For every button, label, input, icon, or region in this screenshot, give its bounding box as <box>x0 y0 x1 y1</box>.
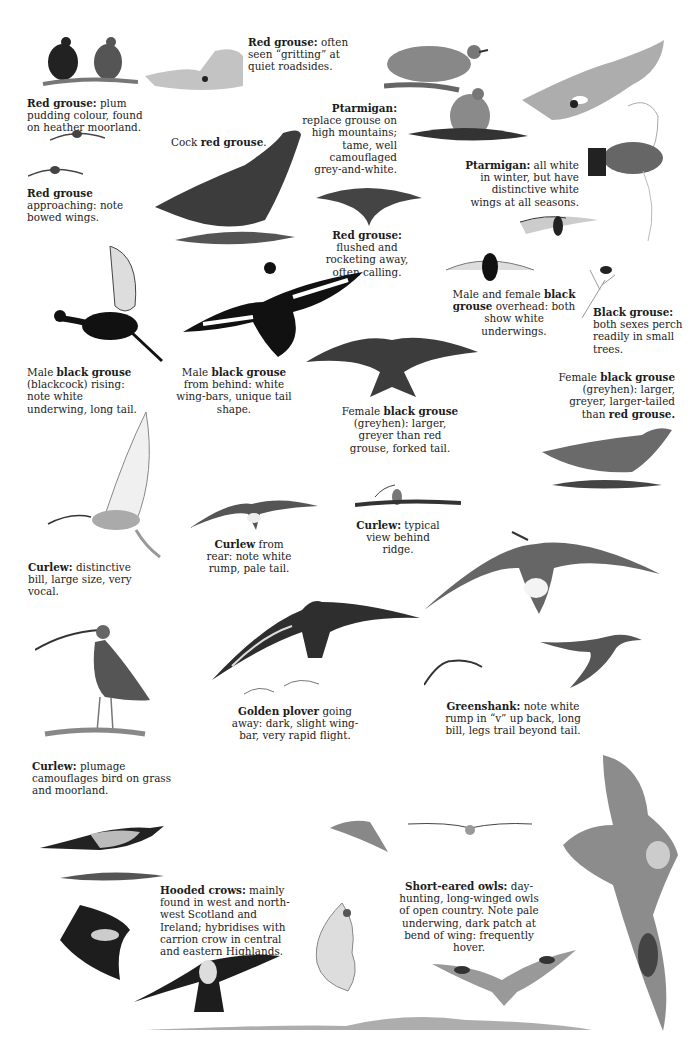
caption-bold: Red grouse: <box>332 229 402 241</box>
caption-post: . <box>671 408 675 420</box>
caption-bold: Curlew: <box>28 561 73 573</box>
caption-pre: Male and female <box>453 288 544 300</box>
caption-bold: Red grouse: <box>27 97 97 109</box>
caption-bold: Red grouse <box>27 187 93 199</box>
caption-short-eared-owls: Short-eared owls: day-hunting, long-wing… <box>393 880 545 953</box>
golden-plover-illustration <box>212 596 420 682</box>
curlew-rising-illustration <box>46 412 162 558</box>
caption-curlew-plumage: Curlew: plumage camouflages bird on gras… <box>32 760 182 797</box>
caption-blackcock-rising: Male black grouse (blackcock) rising: no… <box>27 366 145 415</box>
short-eared-owl-banking-illustration <box>330 818 390 854</box>
caption-curlew-rear: Curlew from rear: note white rump, pale … <box>203 538 295 575</box>
caption-text: (greyhen): larger, greyer than red grous… <box>350 417 450 453</box>
caption-ptarmigan-winter: Ptarmigan: all white in winter, but have… <box>461 159 579 208</box>
short-eared-owl-large-illustration <box>563 755 683 1031</box>
hooded-crow-perched-illustration <box>40 818 166 884</box>
caption-bold: black grouse <box>211 366 286 378</box>
caption-text: overhead: both show white underwings. <box>481 300 575 336</box>
caption-pre: Male <box>182 366 212 378</box>
golden-plover-distant-illustration <box>244 676 324 696</box>
red-grouse-roadside-illustration <box>145 46 245 96</box>
ptarmigan-sitting-illustration <box>408 86 528 146</box>
caption-pre: Male <box>27 366 57 378</box>
greenshank-small-illustration <box>424 655 484 687</box>
caption-greenshank: Greenshank: note white rump in “v” up ba… <box>437 700 589 737</box>
caption-text: from behind: white wing-bars, unique tai… <box>176 378 291 414</box>
caption-bold: Curlew: <box>32 760 77 772</box>
caption-hooded-crows: Hooded crows: mainly found in west and n… <box>160 884 290 957</box>
caption-pre: Female <box>559 371 601 383</box>
caption-bold: Curlew: <box>356 519 401 531</box>
greenshank-overhead-illustration <box>424 526 660 614</box>
hooded-crow-flight-illustration <box>60 905 140 981</box>
red-grouse-flushed-illustration <box>316 178 422 228</box>
blackcock-rising-illustration <box>50 246 165 366</box>
caption-bold: Ptarmigan: <box>465 159 530 171</box>
caption-curlew-bill: Curlew: distinctive bill, large size, ve… <box>28 561 153 598</box>
greyhen-standing-illustration <box>542 420 677 495</box>
greenshank-flight-illustration <box>540 630 642 690</box>
curlew-ridge-illustration <box>355 483 461 511</box>
cock-red-grouse-illustration <box>155 125 305 250</box>
caption-golden-plover: Golden plover going away: dark, slight w… <box>230 705 360 742</box>
caption-bold: Curlew <box>214 538 255 550</box>
greyhen-flight-illustration <box>306 322 478 402</box>
caption-bold: Ptarmigan: <box>332 102 397 114</box>
short-eared-owl-distant-illustration <box>408 820 532 840</box>
caption-bold: black grouse <box>57 366 132 378</box>
caption-text: (blackcock) rising: note white underwing… <box>27 378 137 414</box>
caption-bold: Golden plover <box>238 705 319 717</box>
caption-text: approaching: note bowed wings. <box>27 199 123 223</box>
caption-ptarmigan-replace: Ptarmigan: replace grouse on high mounta… <box>300 102 397 175</box>
caption-greyhen-flight: Female black grouse (greyhen): larger, g… <box>340 405 460 454</box>
caption-bold: Greenshank: <box>447 700 521 712</box>
ground-strip-illustration <box>146 1012 592 1034</box>
curlew-standing-illustration <box>35 622 155 742</box>
caption-greyhen-right: Female black grouse (greyhen): larger, g… <box>548 371 675 420</box>
caption-red-grouse-gritting: Red grouse: often seen “gritting” at qui… <box>248 36 363 73</box>
red-grouse-flight-small-illustration <box>50 128 105 144</box>
caption-bold: Red grouse: <box>248 36 318 48</box>
caption-text: replace grouse on high mountains; tame, … <box>302 114 397 175</box>
caption-bold-2: red grouse <box>609 408 672 420</box>
short-eared-owl-front-illustration <box>432 950 576 1006</box>
red-grouse-pair-illustration <box>38 30 138 90</box>
black-grouse-overhead-pair-illustration <box>446 212 598 284</box>
curlew-rear-illustration <box>190 490 320 532</box>
ptarmigan-winter-flight-illustration <box>588 96 678 246</box>
red-grouse-approaching-illustration <box>28 164 83 180</box>
caption-text: both sexes perch readily in small trees. <box>593 318 682 354</box>
caption-red-grouse-approaching: Red grouse approaching: note bowed wings… <box>27 187 127 224</box>
caption-pre: Female <box>342 405 384 417</box>
caption-bold: black grouse <box>383 405 458 417</box>
black-grouse-in-tree-illustration <box>580 260 620 320</box>
caption-bold: Hooded crows: <box>160 884 246 896</box>
caption-bold: black grouse <box>600 371 675 383</box>
caption-blackcock-behind: Male black grouse from behind: white win… <box>168 366 300 415</box>
short-eared-owl-hover-illustration <box>312 903 362 993</box>
caption-bold: Short-eared owls: <box>405 880 507 892</box>
hooded-crow-overhead-illustration <box>134 952 280 1014</box>
